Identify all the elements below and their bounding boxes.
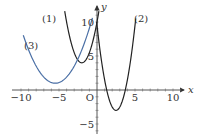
curve-label-1: (1) [42,13,56,24]
curve-label-2: (2) [134,13,148,24]
x-tick-label: 5 [132,92,138,103]
parabola-chart: −10−5510105−5Oxy(1)(2)(3) [0,0,199,136]
curve-label-3: (3) [24,40,38,51]
x-axis-label: x [188,84,194,95]
origin-label: O [86,92,94,103]
y-axis-label: y [100,1,107,12]
x-tick-label: −10 [10,92,31,103]
x-tick-label: −5 [52,92,67,103]
curves [23,11,135,110]
y-tick-label: −5 [79,119,94,130]
x-tick-label: 10 [167,92,180,103]
y-tick-label: 5 [88,51,94,62]
y-tick-label: 10 [81,17,94,28]
curve-2 [97,18,136,110]
